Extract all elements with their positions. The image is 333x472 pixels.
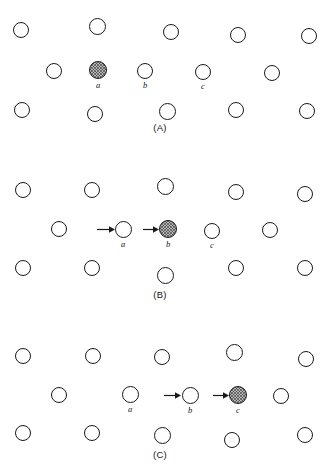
lattice-atom — [115, 221, 132, 238]
lattice-atom — [226, 344, 243, 361]
lattice-diffusion-figure: abc(A)abc(B)abc(C) — [0, 0, 333, 472]
lattice-atom — [298, 351, 314, 367]
atom-label-c: c — [231, 406, 245, 415]
lattice-atom — [157, 178, 174, 195]
lattice-atom — [51, 221, 67, 237]
lattice-atom — [228, 102, 244, 118]
lattice-atom — [84, 182, 100, 198]
lattice-atom — [46, 63, 62, 79]
lattice-atom — [301, 28, 317, 44]
lattice-atom — [228, 184, 244, 200]
lattice-atom — [264, 65, 280, 81]
atom-label-b: b — [138, 81, 152, 90]
lattice-atom — [297, 260, 313, 276]
lattice-atom — [154, 427, 171, 444]
lattice-atom — [299, 103, 315, 119]
lattice-atom — [204, 223, 220, 239]
lattice-atom — [84, 260, 100, 276]
atom-label-c: c — [205, 241, 219, 250]
lattice-atom — [182, 387, 199, 404]
lattice-atom — [87, 106, 103, 122]
lattice-atom — [228, 260, 244, 276]
panel-label-A: (A) — [145, 123, 175, 133]
atom-label-b: b — [161, 240, 175, 249]
lattice-atom — [159, 103, 176, 120]
atom-label-c: c — [196, 82, 210, 91]
panel-label-C: (C) — [145, 450, 175, 460]
atom-label-b: b — [183, 406, 197, 415]
lattice-atom — [122, 386, 139, 403]
lattice-atom — [84, 425, 100, 441]
lattice-atom — [15, 260, 31, 276]
shaded-atom — [229, 386, 247, 404]
lattice-atom — [157, 267, 174, 284]
lattice-atom — [230, 27, 246, 43]
shaded-atom — [89, 61, 107, 79]
lattice-atom — [85, 348, 101, 364]
lattice-atom — [224, 432, 240, 448]
lattice-atom — [195, 64, 211, 80]
lattice-atom — [15, 182, 31, 198]
lattice-atom — [51, 387, 67, 403]
lattice-atom — [273, 388, 289, 404]
lattice-atom — [163, 24, 179, 40]
arrow-to-a-icon — [97, 226, 115, 233]
lattice-atom — [297, 427, 313, 443]
arrow-to-c-icon — [213, 392, 229, 399]
lattice-atom — [137, 63, 153, 79]
lattice-atom — [15, 425, 31, 441]
shaded-atom — [159, 220, 177, 238]
lattice-atom — [154, 349, 170, 365]
lattice-atom — [13, 22, 29, 38]
lattice-atom — [14, 102, 30, 118]
panel-label-B: (B) — [145, 290, 175, 300]
arrow-to-b-icon — [164, 392, 181, 399]
lattice-atom — [89, 18, 106, 35]
lattice-atom — [15, 348, 31, 364]
lattice-atom — [297, 186, 313, 202]
lattice-atom — [262, 222, 278, 238]
arrow-to-b-icon — [143, 226, 159, 233]
atom-label-a: a — [116, 240, 130, 249]
atom-label-a: a — [123, 405, 137, 414]
atom-label-a: a — [91, 81, 105, 90]
